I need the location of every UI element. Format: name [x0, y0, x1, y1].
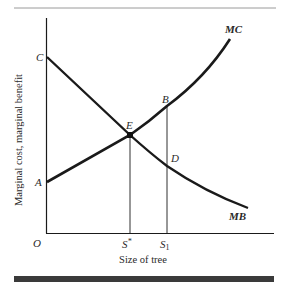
label-mb: MB: [228, 210, 246, 222]
x-axis-title: Size of tree: [119, 254, 167, 265]
label-mc: MC: [224, 23, 243, 35]
label-a: A: [34, 176, 42, 188]
label-b: B: [162, 93, 169, 105]
label-origin: O: [33, 237, 41, 249]
tick-s-star: S*: [122, 237, 132, 250]
bottom-bar: [14, 276, 274, 282]
y-axis-title: Marginal cost, marginal benefit: [13, 74, 24, 206]
equilibrium-point-e: [127, 132, 133, 138]
tick-s1: S1: [160, 238, 170, 252]
mb-curve: [47, 57, 248, 208]
mc-mb-diagram: C A E B D MC MB O S* S1 Size of tree Mar…: [0, 0, 288, 287]
label-c: C: [36, 51, 44, 63]
label-d: D: [170, 152, 179, 164]
label-e: E: [125, 119, 133, 131]
mc-curve: [47, 39, 230, 182]
